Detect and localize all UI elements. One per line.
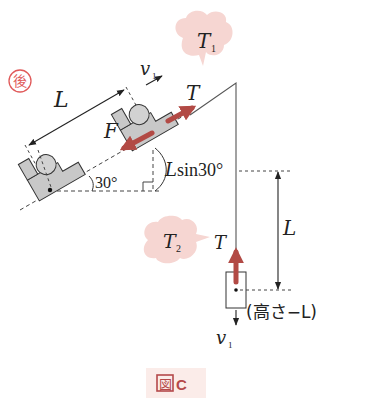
label-velocity-slope: v [140, 58, 150, 79]
speech-bubble-t1: T 1 [175, 11, 232, 66]
label-length-vertical: L [282, 216, 296, 240]
weight-center-dot [234, 288, 238, 292]
angle-arc [89, 176, 93, 191]
caption-kanji: 図 [159, 377, 172, 392]
stamp-go-icon: 後 [9, 70, 31, 92]
figure-caption: 図 C [146, 368, 206, 398]
label-angle: 30° [95, 174, 117, 191]
bubble-t1-sub: 1 [211, 43, 216, 54]
dimension-extension-right [126, 87, 137, 107]
label-tension-hanging: T [214, 232, 228, 253]
label-force: F [103, 119, 119, 143]
label-velocity-down: v [216, 327, 226, 348]
cart-lower-center-dot [48, 188, 52, 192]
bubble-t2-label: T [163, 230, 177, 252]
label-velocity-slope-sub: 1 [152, 71, 157, 81]
label-height: Lsin30° [164, 159, 223, 180]
label-length-slope: L [53, 87, 69, 112]
label-tension-slope: T [186, 81, 201, 105]
bubble-t1-label: T [197, 29, 212, 53]
bubble-t2-sub: 2 [176, 243, 181, 254]
cart-lower [18, 138, 85, 201]
label-height-note: (高さ−L) [246, 302, 317, 322]
stamp-char: 後 [13, 73, 27, 89]
physics-diagram: 後 T 1 T 2 [0, 0, 366, 416]
label-velocity-down-sub: 1 [228, 340, 233, 350]
right-angle-mark [143, 182, 153, 191]
caption-letter: C [176, 376, 187, 393]
speech-bubble-t2: T 2 [144, 216, 210, 264]
